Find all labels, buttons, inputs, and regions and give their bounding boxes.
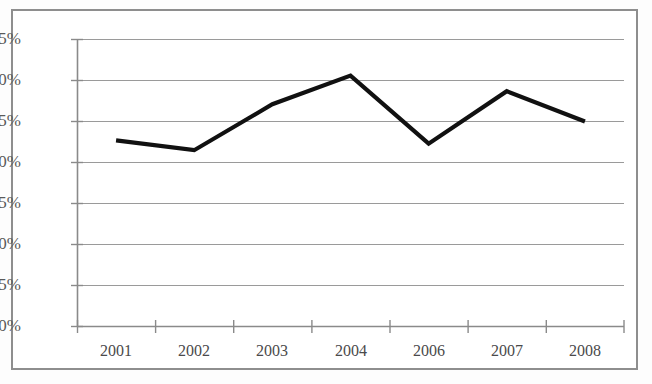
x-tick-label-2004: 2004 — [316, 342, 386, 360]
y-tick-label-20: 20% — [0, 152, 21, 172]
y-tick-label-25: 25% — [0, 111, 21, 131]
chart-frame: 35% 30% 25% 20% 15% 10% 5% 0% 2001 2002 … — [11, 9, 638, 370]
y-tick-label-30: 30% — [0, 70, 21, 90]
x-tick-label-2002: 2002 — [159, 342, 229, 360]
y-tick-label-5: 5% — [0, 275, 21, 295]
axes — [77, 39, 624, 327]
x-tick-label-2008: 2008 — [550, 342, 620, 360]
y-tick-label-35: 35% — [0, 29, 21, 49]
x-tick-label-2006: 2006 — [394, 342, 464, 360]
x-tick-label-2007: 2007 — [472, 342, 542, 360]
x-tick-label-2001: 2001 — [81, 342, 151, 360]
chart-page: 35% 30% 25% 20% 15% 10% 5% 0% 2001 2002 … — [0, 0, 652, 384]
y-tick-label-0: 0% — [0, 316, 21, 336]
y-tick-label-10: 10% — [0, 234, 21, 254]
x-tick-label-2003: 2003 — [237, 342, 307, 360]
line-chart-plot — [13, 11, 636, 368]
y-tick-label-15: 15% — [0, 193, 21, 213]
data-series-line — [116, 76, 585, 151]
